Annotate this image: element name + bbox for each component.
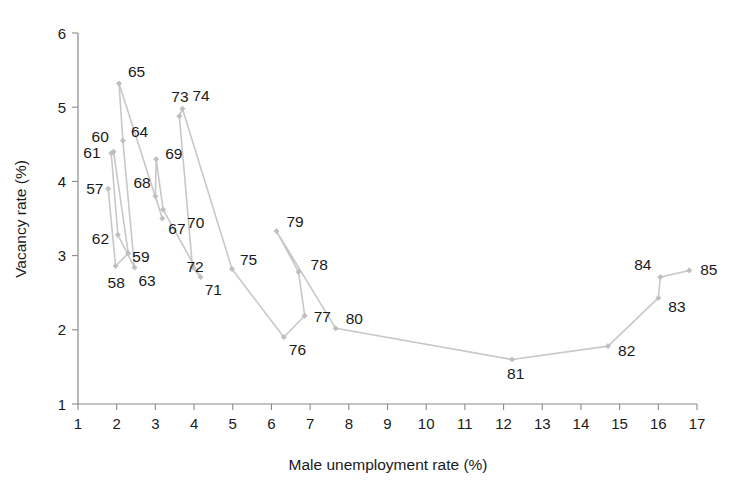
point-label-63: 63 <box>138 272 155 289</box>
x-tick-label-9: 9 <box>383 415 391 432</box>
point-label-57: 57 <box>86 180 103 197</box>
point-label-71: 71 <box>205 281 222 298</box>
data-point-57 <box>106 186 111 191</box>
y-tick-label-4: 4 <box>58 173 66 190</box>
point-label-69: 69 <box>165 145 182 162</box>
point-label-60: 60 <box>92 128 110 145</box>
x-axis-title: Male unemployment rate (%) <box>289 456 488 473</box>
x-tick-label-15: 15 <box>611 415 628 432</box>
point-label-73: 73 <box>171 88 188 105</box>
x-tick-label-16: 16 <box>650 415 667 432</box>
point-label-83: 83 <box>668 298 685 315</box>
y-tick-label-2: 2 <box>58 321 66 338</box>
x-tick-label-13: 13 <box>534 415 551 432</box>
chart-tick-labels: 1234561234567891011121314151617 <box>58 25 706 433</box>
point-label-67: 67 <box>168 220 185 237</box>
point-label-85: 85 <box>700 261 717 278</box>
x-tick-label-14: 14 <box>573 415 590 432</box>
point-label-84: 84 <box>634 256 652 273</box>
y-tick-label-3: 3 <box>58 247 66 264</box>
point-label-75: 75 <box>240 251 257 268</box>
point-label-62: 62 <box>92 230 109 247</box>
data-point-81 <box>509 357 514 362</box>
data-point-74 <box>180 106 185 111</box>
data-point-68 <box>153 194 158 199</box>
data-point-85 <box>687 268 692 273</box>
data-point-64 <box>120 138 125 143</box>
point-label-77: 77 <box>314 308 331 325</box>
point-label-79: 79 <box>286 213 303 230</box>
point-label-72: 72 <box>187 258 204 275</box>
x-tick-label-7: 7 <box>306 415 314 432</box>
data-point-84 <box>658 275 663 280</box>
point-label-68: 68 <box>133 174 150 191</box>
x-tick-label-3: 3 <box>151 415 159 432</box>
chart-plot-area: 5758596061626364656768697071727374757677… <box>0 0 745 498</box>
point-label-80: 80 <box>346 310 364 327</box>
y-tick-label-6: 6 <box>58 25 66 42</box>
x-tick-label-8: 8 <box>345 415 353 432</box>
point-label-58: 58 <box>108 274 125 291</box>
data-point-65 <box>116 81 121 86</box>
y-tick-label-5: 5 <box>58 99 66 116</box>
point-label-76: 76 <box>289 341 306 358</box>
x-tick-label-5: 5 <box>229 415 237 432</box>
point-label-78: 78 <box>311 256 328 273</box>
x-tick-label-1: 1 <box>74 415 82 432</box>
point-label-61: 61 <box>83 144 100 161</box>
y-tick-label-1: 1 <box>58 396 66 413</box>
data-point-73 <box>177 114 182 119</box>
x-tick-label-11: 11 <box>457 415 473 432</box>
point-label-81: 81 <box>507 365 524 382</box>
point-label-82: 82 <box>618 342 635 359</box>
y-axis-title: Vacancy rate (%) <box>12 160 29 278</box>
x-tick-label-6: 6 <box>267 415 275 432</box>
point-label-65: 65 <box>128 63 145 80</box>
data-point-69 <box>154 157 159 162</box>
point-label-64: 64 <box>131 123 149 140</box>
chart-tick-marks <box>72 33 697 410</box>
x-tick-label-2: 2 <box>113 415 121 432</box>
x-tick-label-17: 17 <box>689 415 706 432</box>
point-label-59: 59 <box>132 248 149 265</box>
chart-point-labels: 5758596061626364656768697071727374757677… <box>83 63 717 382</box>
x-tick-label-10: 10 <box>418 415 435 432</box>
x-tick-label-12: 12 <box>495 415 512 432</box>
x-tick-label-4: 4 <box>190 415 198 432</box>
point-label-70: 70 <box>187 214 205 231</box>
data-point-67 <box>160 216 165 221</box>
point-label-74: 74 <box>192 87 210 104</box>
beveridge-curve-chart: 5758596061626364656768697071727374757677… <box>0 0 745 498</box>
